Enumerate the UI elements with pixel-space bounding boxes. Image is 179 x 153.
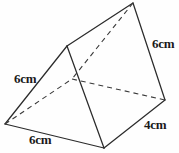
hidden-edge-apex-to-back <box>72 3 133 79</box>
dimension-label-right-vertical: 6cm <box>152 37 175 50</box>
dimension-label-bottom-base: 6cm <box>29 133 52 146</box>
triangular-prism-figure: 6cm 6cm 6cm 4cm <box>0 0 179 153</box>
edge-bottom-base <box>5 124 104 148</box>
dimension-label-right-depth: 4cm <box>144 118 167 131</box>
hidden-edges-group <box>5 3 165 124</box>
edge-right-vertical <box>133 3 165 100</box>
edge-front-vertical <box>67 46 104 148</box>
dimension-label-left-slant: 6cm <box>14 72 37 85</box>
edge-top-ridge <box>67 3 133 46</box>
